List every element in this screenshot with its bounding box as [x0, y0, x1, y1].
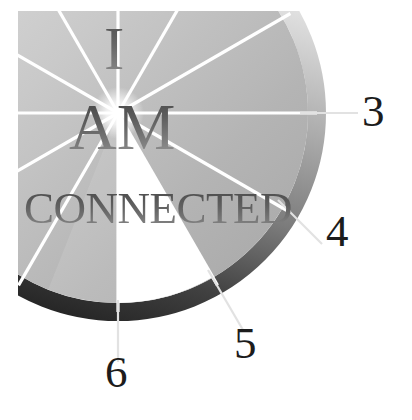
spoke-label-6: 6: [105, 350, 128, 395]
affirmation-line-2: AM: [69, 94, 175, 160]
wheel-graphic: I AM CONNECTED 3 4 5 6: [0, 0, 412, 420]
affirmation-line-3: CONNECTED: [24, 186, 292, 231]
spoke-label-3: 3: [362, 89, 385, 134]
spoke-label-5: 5: [234, 321, 257, 366]
affirmation-line-1: I: [104, 18, 125, 79]
spoke-label-4: 4: [326, 209, 349, 254]
